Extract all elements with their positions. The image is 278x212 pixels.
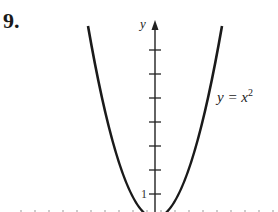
y-tick-label-1: 1 (141, 187, 147, 201)
y-axis-arrow-icon (152, 20, 159, 30)
parabola-graph: y 1 y = x2 (0, 0, 278, 212)
y-axis-label: y (138, 16, 146, 31)
curve-label: y = x2 (215, 87, 253, 105)
